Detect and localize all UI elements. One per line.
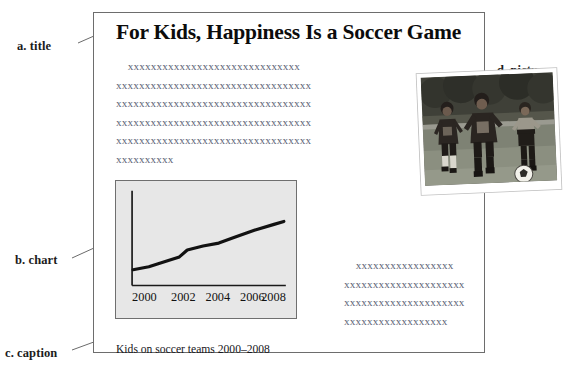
photo-frame[interactable] <box>417 68 562 195</box>
body-text-lead: xxxxxxxxxxxxxxxxxxxxxxxxxxxxxx xxxxxxxxx… <box>116 57 311 169</box>
chart-series-line <box>133 221 284 269</box>
chart-plot: 2000 2002 2004 2006 2008 <box>116 181 296 318</box>
newspaper-page: For Kids, Happiness Is a Soccer Game xxx… <box>93 12 485 353</box>
chart-xtick-2004: 2004 <box>206 290 231 304</box>
figure-canvas: a. title b. chart c. caption d. picture … <box>0 0 577 375</box>
photo-image <box>421 72 557 185</box>
photo-soccer-ball <box>514 165 533 183</box>
soccer-photo-illustration <box>421 72 557 185</box>
body-text-tail: xxxxxxxxxxxxxxxxx xxxxxxxxxxxxxxxxxxxxx … <box>344 256 465 330</box>
chart-xtick-2008: 2008 <box>261 290 286 304</box>
chart-caption: Kids on soccer teams 2000–2008 <box>116 343 270 356</box>
chart-xtick-2000: 2000 <box>132 290 157 304</box>
page-title: For Kids, Happiness Is a Soccer Game <box>116 20 466 44</box>
chart-figure[interactable]: 2000 2002 2004 2006 2008 <box>115 180 297 319</box>
chart-xtick-2002: 2002 <box>171 290 196 304</box>
